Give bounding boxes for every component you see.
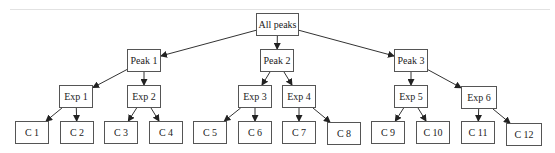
edge-p2-e3 xyxy=(262,72,270,85)
node-c11: C 11 xyxy=(461,121,495,144)
node-c6: C 6 xyxy=(238,121,272,144)
node-p3: Peak 3 xyxy=(394,49,428,72)
node-e6: Exp 6 xyxy=(461,86,497,109)
node-p1: Peak 1 xyxy=(127,49,161,72)
node-e5: Exp 5 xyxy=(394,85,428,108)
edge-e5-c9 xyxy=(395,108,403,121)
node-c2: C 2 xyxy=(60,121,94,144)
node-e2: Exp 2 xyxy=(127,85,161,108)
edge-root-p3 xyxy=(299,30,394,56)
node-p2: Peak 2 xyxy=(260,49,294,72)
edge-p3-e6 xyxy=(428,70,461,88)
node-c3: C 3 xyxy=(104,121,138,144)
node-c1: C 1 xyxy=(15,121,49,144)
node-e4: Exp 4 xyxy=(282,85,316,108)
edge-e5-c10 xyxy=(418,108,426,121)
edge-e2-c4 xyxy=(151,108,159,121)
node-e3: Exp 3 xyxy=(238,85,272,108)
node-root: All peaks xyxy=(256,13,299,36)
edge-e4-c8 xyxy=(313,108,330,122)
edge-p1-e1 xyxy=(93,70,127,88)
edge-e6-c12 xyxy=(493,109,510,123)
edge-e2-c3 xyxy=(128,108,136,121)
node-c8: C 8 xyxy=(327,122,361,145)
node-e1: Exp 1 xyxy=(59,85,93,108)
node-c12: C 12 xyxy=(506,123,542,146)
edge-p2-e4 xyxy=(284,72,292,85)
node-c5: C 5 xyxy=(193,121,227,144)
edge-e1-c1 xyxy=(46,108,62,121)
node-c7: C 7 xyxy=(282,121,316,144)
edge-root-p1 xyxy=(161,30,256,56)
node-c4: C 4 xyxy=(149,121,183,144)
edge-e3-c5 xyxy=(224,108,240,121)
node-c9: C 9 xyxy=(371,121,405,144)
node-c10: C 10 xyxy=(416,121,450,144)
